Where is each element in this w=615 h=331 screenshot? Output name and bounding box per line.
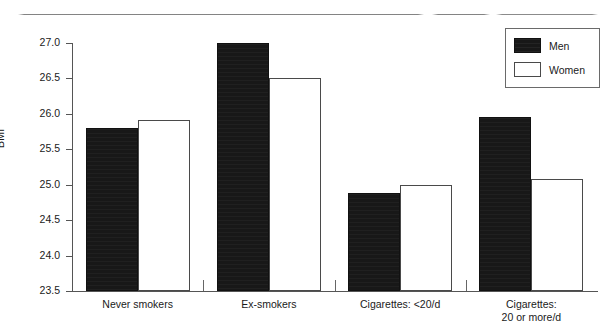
- x-axis-category-label: Never smokers: [72, 298, 203, 311]
- x-axis-category-label-line: Cigarettes: <20/d: [335, 298, 466, 311]
- bar-men: [479, 117, 531, 291]
- y-axis-tick-label: 26.0: [24, 108, 60, 118]
- legend-label-men: Men: [549, 40, 569, 52]
- y-axis-title: BMI: [0, 129, 6, 148]
- x-axis-category-label: Ex-smokers: [203, 298, 334, 311]
- y-axis-tick-label: 24.5: [24, 214, 60, 224]
- bar-men: [348, 193, 400, 291]
- y-axis-tick-label: 23.5: [24, 285, 60, 295]
- y-axis-tick-label: 25.5: [24, 143, 60, 153]
- bar-women: [531, 179, 583, 291]
- bar-women: [138, 120, 190, 291]
- bar-women: [400, 185, 452, 291]
- y-axis-tick-label: 27.0: [24, 37, 60, 47]
- y-axis-tick-label: 25.0: [24, 179, 60, 189]
- bar-men: [86, 128, 138, 291]
- legend-entry-women: Women: [514, 62, 585, 77]
- legend-swatch-women-icon: [514, 62, 541, 77]
- y-axis-tick-label: 26.5: [24, 72, 60, 82]
- y-axis-tick-label: 24.0: [24, 250, 60, 260]
- x-axis-category-label-line: 20 or more/d: [466, 311, 597, 324]
- bmi-bar-chart: BMI 27.026.526.025.525.024.524.023.5 Nev…: [0, 0, 615, 331]
- y-axis-tick: [66, 291, 72, 292]
- x-axis-category-label-line: Never smokers: [72, 298, 203, 311]
- legend-entry-men: Men: [514, 38, 569, 53]
- legend-label-women: Women: [549, 64, 585, 76]
- chart-legend: Men Women: [505, 28, 600, 88]
- bar-men: [217, 43, 269, 291]
- legend-swatch-men-icon: [514, 38, 541, 53]
- x-axis-line: [72, 291, 598, 292]
- x-axis-category-label-line: Ex-smokers: [203, 298, 334, 311]
- x-axis-category-label: Cigarettes:20 or more/d: [466, 298, 597, 324]
- x-axis-category-label-line: Cigarettes:: [466, 298, 597, 311]
- x-axis-category-label: Cigarettes: <20/d: [335, 298, 466, 311]
- bar-women: [269, 78, 321, 291]
